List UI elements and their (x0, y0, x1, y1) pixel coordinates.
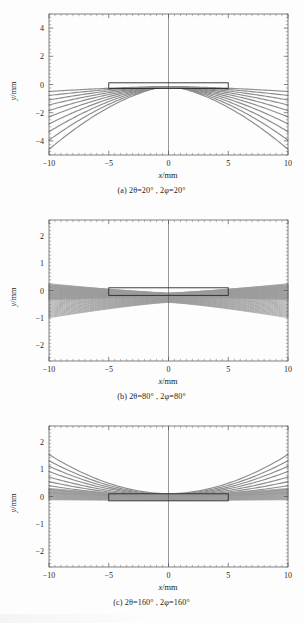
y-tick-label: 0 (40, 493, 44, 502)
y-tick-label: −2 (35, 109, 44, 118)
panel-c-svg: −10−50510210−1−2 x/mm y/mm (0, 418, 303, 594)
x-tick-label: −10 (43, 159, 56, 168)
panel-c: −10−50510210−1−2 x/mm y/mm (c) 2θ=160° ,… (0, 418, 303, 618)
x-tick-label: 0 (167, 159, 171, 168)
panel-a-axes: −10−50510420−2−4 (35, 14, 292, 168)
figure-container: −10−50510420−2−4 x/mm y/mm (a) 2θ=20° , … (0, 0, 303, 623)
y-tick-label: −1 (35, 520, 44, 529)
y-tick-label: 1 (40, 465, 44, 474)
panel-c-plot: −10−50510210−1−2 x/mm y/mm (0, 418, 303, 594)
x-tick-label: 10 (284, 571, 292, 580)
y-tick-label: 2 (40, 438, 44, 447)
y-tick-label: −2 (35, 547, 44, 556)
x-tick-label: 10 (284, 159, 292, 168)
panel-b-plot: −10−50510210−1−2 x/mm y/mm (0, 212, 303, 388)
x-tick-label: 0 (167, 365, 171, 374)
x-tick-label: 0 (167, 571, 171, 580)
panel-a-plot: −10−50510420−2−4 x/mm y/mm (0, 6, 303, 182)
panel-a-xaxis-title: x/mm (157, 171, 178, 180)
x-tick-label: −10 (43, 571, 56, 580)
panel-b-svg: −10−50510210−1−2 x/mm y/mm (0, 212, 303, 388)
y-tick-label: −1 (35, 314, 44, 323)
panel-a-svg: −10−50510420−2−4 x/mm y/mm (0, 6, 303, 182)
y-tick-label: 0 (40, 81, 44, 90)
panel-b: −10−50510210−1−2 x/mm y/mm (b) 2θ=80° , … (0, 212, 303, 412)
ray-curve-right-0 (169, 87, 289, 150)
ray-curve-left-0 (49, 87, 169, 150)
x-tick-label: −10 (43, 365, 56, 374)
panel-a-caption: (a) 2θ=20° , 2φ=20° (0, 186, 303, 195)
x-tick-label: 5 (226, 571, 230, 580)
y-tick-label: 2 (40, 52, 44, 61)
panel-c-caption: (c) 2θ=160° , 2φ=160° (0, 598, 303, 607)
y-tick-label: 0 (40, 287, 44, 296)
x-tick-label: −5 (104, 365, 113, 374)
y-tick-label: 2 (40, 232, 44, 241)
y-tick-label: −2 (35, 341, 44, 350)
panel-a-yaxis-title: y/mm (9, 81, 18, 102)
x-tick-label: 10 (284, 365, 292, 374)
y-tick-label: 1 (40, 259, 44, 268)
panel-a: −10−50510420−2−4 x/mm y/mm (a) 2θ=20° , … (0, 6, 303, 206)
panel-c-yaxis-title: y/mm (9, 493, 18, 514)
x-tick-label: −5 (104, 571, 113, 580)
panel-c-xaxis-title: x/mm (157, 583, 178, 592)
x-tick-label: 5 (226, 159, 230, 168)
panel-b-yaxis-title: y/mm (9, 287, 18, 308)
panel-b-caption: (b) 2θ=80° , 2φ=80° (0, 392, 303, 401)
panel-c-axes: −10−50510210−1−2 (35, 426, 292, 580)
y-tick-label: −4 (35, 137, 44, 146)
panel-b-xaxis-title: x/mm (157, 377, 178, 386)
y-tick-label: 4 (40, 24, 44, 33)
x-tick-label: 5 (226, 365, 230, 374)
x-tick-label: −5 (104, 159, 113, 168)
